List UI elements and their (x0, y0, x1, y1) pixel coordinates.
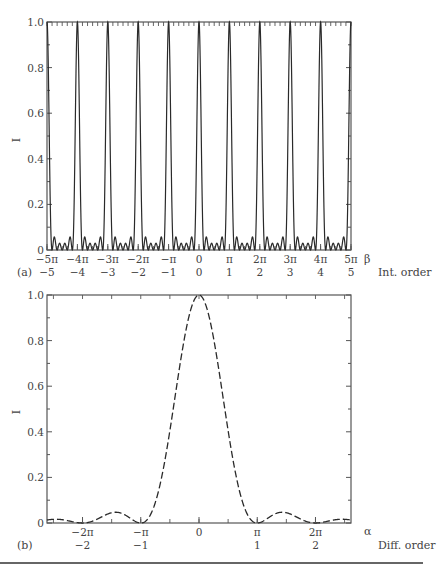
order-tick-label: 0 (196, 266, 203, 278)
panel-b-frame (47, 295, 351, 523)
x-tick-label: −π (161, 253, 177, 265)
x-tick-label: π (254, 526, 261, 538)
x-tick-label: −2π (71, 526, 93, 538)
x-tick-label: π (226, 253, 233, 265)
order-tick-label: −2 (75, 539, 90, 551)
y-tick-label: 0.6 (27, 380, 44, 392)
x-tick-label: 5π (344, 253, 358, 265)
panel-b-x-ticks: −2π−π0π2π−2−112 (71, 517, 322, 551)
order-tick-label: 2 (312, 539, 319, 551)
panel-b-y-ticks: 00.20.40.60.81.0 (27, 289, 351, 529)
panel-b-envelope-curve (47, 295, 351, 523)
x-tick-label: 4π (314, 253, 328, 265)
x-tick-label: −π (133, 526, 149, 538)
x-tick-label: 0 (196, 526, 203, 538)
order-tick-label: −2 (130, 266, 145, 278)
order-tick-label: 1 (254, 539, 261, 551)
panel-a-intensity-curve (47, 22, 351, 250)
y-tick-label: 0.8 (27, 335, 44, 347)
order-tick-label: 5 (348, 266, 355, 278)
order-tick-label: 2 (256, 266, 263, 278)
y-tick-label: 0 (37, 517, 44, 529)
figure-canvas: 00.20.40.60.81.0 −5π−4π−3π−2π−π0π2π3π4π5… (0, 0, 438, 568)
y-tick-label: 0.4 (27, 426, 44, 438)
y-tick-label: 1.0 (27, 289, 44, 301)
panel-b-order-axis-title: Diff. order (378, 539, 436, 552)
panel-a-x-axis-symbol: β (364, 253, 370, 266)
panel-b-label: (b) (17, 539, 33, 552)
order-tick-label: −1 (133, 539, 148, 551)
order-tick-label: −1 (161, 266, 176, 278)
x-tick-label: 0 (196, 253, 203, 265)
panel-a-interference-plot: 00.20.40.60.81.0 −5π−4π−3π−2π−π0π2π3π4π5… (10, 16, 432, 279)
order-tick-label: −5 (39, 266, 54, 278)
order-tick-label: 3 (287, 266, 294, 278)
y-tick-label: 0.4 (27, 153, 44, 165)
panel-a-label: (a) (17, 266, 32, 279)
x-tick-label: 2π (309, 526, 323, 538)
panel-a-minor-ticks (47, 22, 351, 250)
order-tick-label: −3 (100, 266, 115, 278)
x-tick-label: −5π (36, 253, 58, 265)
panel-b-minor-ticks (53, 295, 344, 523)
y-tick-label: 1.0 (27, 16, 44, 28)
panel-a-y-axis-title: I (10, 138, 23, 142)
panel-a-frame (47, 22, 351, 250)
order-tick-label: 1 (226, 266, 233, 278)
panel-b-x-axis-symbol: α (364, 525, 372, 538)
x-tick-label: 2π (253, 253, 267, 265)
x-tick-label: 3π (283, 253, 297, 265)
panel-a-order-axis-title: Int. order (378, 266, 432, 279)
y-tick-label: 0.2 (27, 471, 44, 483)
y-tick-label: 0.6 (27, 107, 44, 119)
panel-b-y-axis-title: I (10, 410, 23, 414)
x-tick-label: −4π (66, 253, 88, 265)
x-tick-label: −3π (97, 253, 119, 265)
y-tick-label: 0.8 (27, 62, 44, 74)
panel-b-diffraction-plot: 00.20.40.60.81.0 −2π−π0π2π−2−112 I α (b)… (10, 289, 436, 552)
x-tick-label: −2π (127, 253, 149, 265)
y-tick-label: 0.2 (27, 198, 44, 210)
order-tick-label: −4 (70, 266, 86, 278)
order-tick-label: 4 (317, 266, 324, 278)
